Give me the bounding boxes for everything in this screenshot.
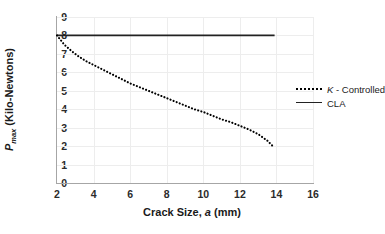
- legend-item-cla[interactable]: CLA: [296, 96, 385, 110]
- x-axis-line: [56, 183, 314, 184]
- legend-label-k-controlled: K - Controlled: [327, 84, 385, 95]
- gridline-horizontal: [57, 17, 313, 18]
- gridline-horizontal: [57, 165, 313, 166]
- gridline-vertical: [240, 17, 241, 183]
- gridline-horizontal: [57, 91, 313, 92]
- x-tick-label-6: 6: [118, 189, 142, 200]
- gridline-horizontal: [57, 72, 313, 73]
- gridline-vertical: [130, 17, 131, 183]
- legend-text-cla: CLA: [327, 98, 345, 109]
- plot-area: [57, 17, 313, 183]
- gridline-horizontal: [57, 109, 313, 110]
- gridline-vertical: [94, 17, 95, 183]
- x-tick-label-12: 12: [228, 189, 252, 200]
- y-axis-title-symbol: P: [3, 144, 15, 151]
- x-tick-label-16: 16: [301, 189, 325, 200]
- x-tick-label-8: 8: [155, 189, 179, 200]
- x-tick-label-14: 14: [264, 189, 288, 200]
- x-axis-title-units: (mm): [211, 206, 241, 218]
- y-axis-title-subscript: max: [10, 129, 19, 144]
- gridline-horizontal: [57, 35, 313, 36]
- gridline-horizontal: [57, 54, 313, 55]
- gridline-vertical: [276, 17, 277, 183]
- y-axis-line: [56, 16, 57, 184]
- legend-label-cla: CLA: [327, 98, 345, 109]
- x-axis-title: Crack Size, a (mm): [0, 206, 384, 218]
- x-tick-label-10: 10: [191, 189, 215, 200]
- x-tick-label-4: 4: [82, 189, 106, 200]
- gridline-horizontal: [57, 146, 313, 147]
- gridline-horizontal: [57, 128, 313, 129]
- y-axis-title: Pmax (Kilo-Newtons): [2, 0, 20, 200]
- gridline-vertical: [203, 17, 204, 183]
- legend-text-controlled: - Controlled: [333, 84, 385, 95]
- solid-line-swatch-icon: [296, 98, 322, 108]
- legend: K - Controlled CLA: [296, 82, 385, 110]
- y-axis-title-units: (Kilo-Newtons): [3, 48, 15, 129]
- gridline-vertical: [167, 17, 168, 183]
- x-tick-label-2: 2: [45, 189, 69, 200]
- legend-item-k-controlled[interactable]: K - Controlled: [296, 82, 385, 96]
- dotted-line-swatch-icon: [296, 84, 322, 94]
- x-axis-title-prefix: Crack Size,: [143, 206, 205, 218]
